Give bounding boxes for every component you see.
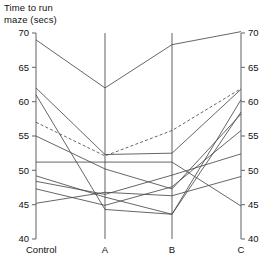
y-tick-label-right-60: 60 [248, 96, 259, 107]
data-line-subject-2 [36, 88, 241, 155]
y-tick-label-left-60: 60 [18, 96, 29, 107]
y-tick-label-right-50: 50 [248, 165, 259, 176]
line-chart: Time to runmaze (secs) 40455055606570404… [0, 0, 275, 270]
x-category-label-b: B [169, 244, 175, 255]
data-line-subject-10 [36, 177, 241, 204]
x-category-label-a: A [102, 244, 109, 255]
axis-labels-group: 4045505560657040455055606570ControlABC [18, 27, 258, 255]
data-lines-group [36, 32, 241, 215]
y-tick-label-left-50: 50 [18, 165, 29, 176]
y-tick-label-right-70: 70 [248, 27, 259, 38]
plot-area: 4045505560657040455055606570ControlABC [0, 0, 275, 270]
y-tick-label-left-55: 55 [18, 130, 29, 141]
x-category-label-c: C [238, 244, 245, 255]
y-tick-label-right-40: 40 [248, 233, 259, 244]
data-line-subject-1 [36, 32, 241, 88]
y-tick-label-left-45: 45 [18, 199, 29, 210]
y-tick-label-right-55: 55 [248, 130, 259, 141]
data-line-subject-8 [36, 154, 241, 195]
y-tick-label-right-65: 65 [248, 62, 259, 73]
data-line-subject-6 [36, 162, 241, 206]
y-tick-label-left-70: 70 [18, 27, 29, 38]
y-tick-label-right-45: 45 [248, 199, 259, 210]
x-category-label-control: Control [26, 244, 57, 255]
axes-group [32, 33, 245, 239]
y-tick-label-left-65: 65 [18, 62, 29, 73]
y-tick-label-left-40: 40 [18, 233, 29, 244]
